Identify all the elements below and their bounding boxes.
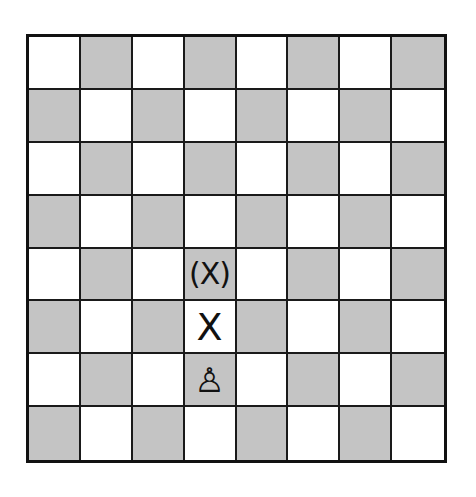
square-d5 [185,196,237,249]
square-b3 [81,301,133,354]
square-h5 [392,196,444,249]
square-a1 [29,407,81,460]
square-d1 [185,407,237,460]
square-a2 [29,354,81,407]
square-a6 [29,143,81,196]
square-h4 [392,249,444,302]
square-e6 [237,143,289,196]
square-g5 [340,196,392,249]
square-c8 [133,37,185,90]
square-d4: (X) [185,249,237,302]
square-b2 [81,354,133,407]
square-e7 [237,90,289,143]
square-f6 [288,143,340,196]
square-f5 [288,196,340,249]
square-g6 [340,143,392,196]
square-f7 [288,90,340,143]
square-a5 [29,196,81,249]
square-c7 [133,90,185,143]
square-f4 [288,249,340,302]
square-b1 [81,407,133,460]
square-b4 [81,249,133,302]
square-d3: X [185,301,237,354]
move-target-mark: X [197,308,223,346]
square-b5 [81,196,133,249]
square-b8 [81,37,133,90]
chess-board: (X)X♙ [26,34,447,463]
square-b7 [81,90,133,143]
square-e8 [237,37,289,90]
square-f1 [288,407,340,460]
square-g4 [340,249,392,302]
square-b6 [81,143,133,196]
square-c4 [133,249,185,302]
square-h7 [392,90,444,143]
white-pawn-icon: ♙ [194,363,224,397]
square-c6 [133,143,185,196]
square-e2 [237,354,289,407]
square-f8 [288,37,340,90]
square-g1 [340,407,392,460]
square-a8 [29,37,81,90]
square-e3 [237,301,289,354]
optional-move-target-mark: (X) [189,259,230,289]
square-d6 [185,143,237,196]
square-c2 [133,354,185,407]
square-g7 [340,90,392,143]
square-e1 [237,407,289,460]
square-h2 [392,354,444,407]
square-d2: ♙ [185,354,237,407]
square-h8 [392,37,444,90]
square-a7 [29,90,81,143]
square-g8 [340,37,392,90]
square-a3 [29,301,81,354]
square-c1 [133,407,185,460]
square-h3 [392,301,444,354]
square-d8 [185,37,237,90]
square-h1 [392,407,444,460]
square-f2 [288,354,340,407]
square-c5 [133,196,185,249]
square-c3 [133,301,185,354]
square-e5 [237,196,289,249]
square-g3 [340,301,392,354]
square-g2 [340,354,392,407]
square-a4 [29,249,81,302]
square-h6 [392,143,444,196]
square-d7 [185,90,237,143]
square-f3 [288,301,340,354]
square-e4 [237,249,289,302]
